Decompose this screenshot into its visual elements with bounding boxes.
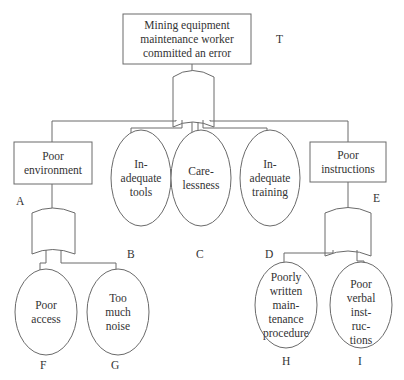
- event-E-text: Poor instructions: [310, 148, 386, 176]
- event-C-text: Care- lessness: [171, 164, 231, 192]
- or-gate-E-icon: [325, 208, 371, 257]
- or-gate-A-icon: [32, 208, 75, 254]
- top-event-text: Mining equipment maintenance worker comm…: [123, 18, 251, 60]
- event-B-label: B: [127, 248, 135, 260]
- event-G-label: G: [111, 359, 119, 371]
- event-G-text: Too much noise: [87, 291, 149, 333]
- event-D-text: In- adequate training: [240, 157, 300, 199]
- event-A-text: Poor environment: [14, 149, 92, 177]
- top-event-label: T: [276, 33, 283, 45]
- event-F-label: F: [40, 359, 46, 371]
- connector-to-G: [61, 250, 116, 274]
- event-E-label: E: [373, 192, 380, 204]
- top-or-gate-icon: [173, 71, 214, 128]
- event-I-text: Poor verbal inst- ruc- tions: [330, 277, 392, 347]
- event-B-text: In- adequate tools: [111, 157, 171, 199]
- event-H-text: Poorly written main- tenance procedure: [255, 270, 317, 340]
- event-I-label: I: [358, 355, 362, 367]
- event-D-label: D: [265, 248, 273, 260]
- event-F-text: Poor access: [15, 298, 77, 326]
- event-C-label: C: [196, 248, 204, 260]
- event-H-label: H: [282, 355, 290, 367]
- event-A-label: A: [16, 195, 24, 207]
